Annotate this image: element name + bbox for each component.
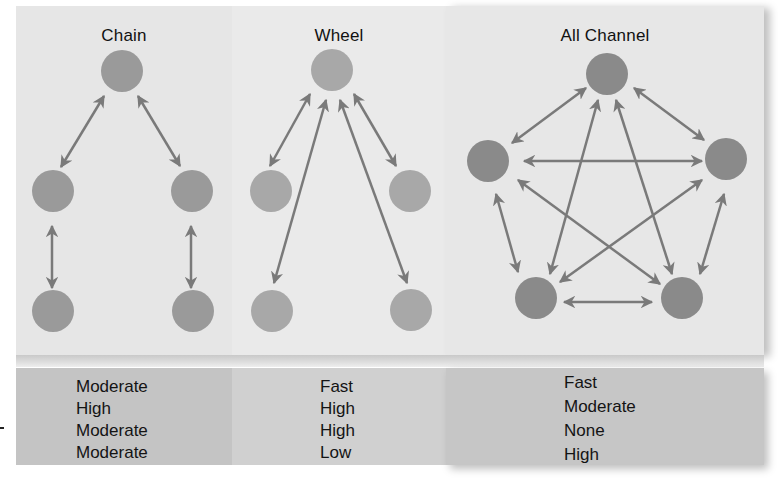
node-circle: [172, 290, 214, 332]
wheel-values-list: Fast High High Low: [320, 376, 355, 464]
node-circle: [467, 140, 509, 182]
wheel-values-panel: Fast High High Low: [232, 368, 446, 465]
chain-values-panel: Moderate High Moderate Moderate: [16, 368, 232, 465]
arrow-top-right: [634, 88, 704, 140]
wheel-network-panel: Wheel: [232, 6, 446, 355]
panel-divider-shadow: [16, 355, 764, 367]
node-circle: [251, 290, 293, 332]
chain-network-diagram: [16, 6, 232, 355]
all-channel-value-1: Fast: [564, 371, 636, 395]
node-circle: [661, 277, 703, 319]
all-channel-values-panel: Fast Moderate None High: [446, 368, 764, 465]
node-circle: [32, 290, 74, 332]
node-circle: [705, 138, 747, 180]
node-circle: [101, 50, 143, 92]
arrow-left-bottom-left: [496, 194, 518, 272]
node-circle: [250, 170, 292, 212]
node-circle: [389, 170, 431, 212]
wheel-value-4: Low: [320, 442, 355, 464]
all-channel-value-2: Moderate: [564, 395, 636, 419]
all-channel-network-panel: All Channel: [446, 6, 764, 355]
all-channel-value-4: High: [564, 443, 636, 467]
chain-value-4: Moderate: [76, 442, 148, 464]
chain-value-1: Moderate: [76, 376, 148, 398]
hub-node-circle: [311, 49, 353, 91]
node-circle: [32, 170, 74, 212]
chain-value-3: Moderate: [76, 420, 148, 442]
all-channel-nodes: [467, 53, 747, 319]
node-circle: [515, 277, 557, 319]
arrow-top-bottom-left: [550, 100, 598, 274]
wheel-value-1: Fast: [320, 376, 355, 398]
wheel-network-diagram: [232, 6, 446, 355]
chain-network-panel: Chain: [16, 6, 232, 355]
node-circle: [390, 289, 432, 331]
wheel-nodes: [250, 49, 432, 332]
wheel-value-3: High: [320, 420, 355, 442]
node-circle: [586, 53, 628, 95]
arrow-right-bottom-right: [700, 194, 724, 274]
chain-value-2: High: [76, 398, 148, 420]
arrow-left-bottom-right: [518, 180, 660, 284]
chain-values-list: Moderate High Moderate Moderate: [76, 376, 148, 464]
all-channel-value-3: None: [564, 419, 636, 443]
arrow-hub-left: [270, 94, 310, 166]
node-circle: [171, 170, 213, 212]
all-channel-network-diagram: [446, 6, 764, 355]
all-channel-arrows: [496, 88, 724, 302]
arrow-top-right: [138, 96, 180, 166]
arrow-top-left: [512, 88, 586, 143]
arrow-top-bottom-right: [616, 100, 672, 274]
chain-nodes: [32, 50, 214, 332]
arrow-top-left: [61, 96, 104, 167]
all-channel-values-list: Fast Moderate None High: [564, 371, 636, 467]
wheel-value-2: High: [320, 398, 355, 420]
arrow-right-bottom-left: [560, 180, 702, 282]
leader-line-mark: [0, 427, 4, 429]
